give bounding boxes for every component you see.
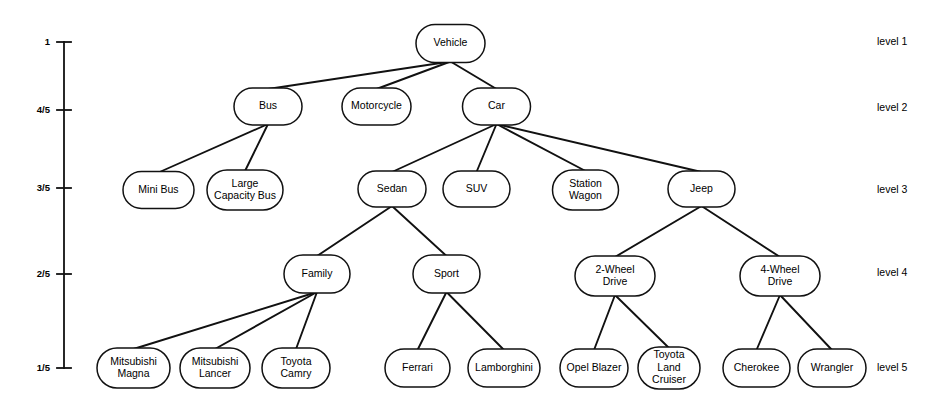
axis-tick-label-0: 1 bbox=[45, 36, 51, 47]
tree-node-jeep[interactable]: Jeep bbox=[668, 171, 735, 207]
tree-edge-sedan-to-family bbox=[317, 206, 392, 256]
tree-edge-car-to-sedan bbox=[392, 124, 497, 172]
node-label-large-cap-bus: Capacity Bus bbox=[214, 189, 276, 201]
node-label-mitsu-magna: Magna bbox=[117, 367, 149, 379]
axis-tick-label-2: 3/5 bbox=[37, 182, 51, 193]
node-label-two-wheel: 2-Wheel bbox=[595, 263, 634, 275]
tree-node-large-cap-bus[interactable]: LargeCapacity Bus bbox=[207, 170, 283, 210]
node-label-jeep: Jeep bbox=[690, 182, 713, 194]
tree-edge-vehicle-to-motorcycle bbox=[377, 62, 451, 90]
node-label-family: Family bbox=[302, 267, 334, 279]
node-label-vehicle: Vehicle bbox=[434, 36, 468, 48]
tree-node-suv[interactable]: SUV bbox=[443, 171, 510, 207]
node-label-two-wheel: Drive bbox=[603, 275, 628, 287]
node-label-station-wagon: Wagon bbox=[569, 189, 602, 201]
tree-edge-car-to-station-wagon bbox=[497, 124, 586, 171]
tree-node-sport[interactable]: Sport bbox=[413, 255, 480, 293]
tree-edge-two-wheel-to-toyota-lc bbox=[615, 295, 669, 348]
node-label-mitsu-lancer: Mitsubishi bbox=[192, 355, 239, 367]
membership-axis: 14/53/52/51/5 bbox=[37, 36, 71, 373]
tree-node-car[interactable]: Car bbox=[463, 88, 531, 125]
tree-node-two-wheel[interactable]: 2-WheelDrive bbox=[575, 256, 655, 296]
node-label-sedan: Sedan bbox=[377, 182, 408, 194]
node-label-four-wheel: Drive bbox=[768, 275, 793, 287]
node-label-mini-bus: Mini Bus bbox=[138, 183, 178, 195]
node-label-station-wagon: Station bbox=[569, 177, 602, 189]
node-label-ferrari: Ferrari bbox=[402, 361, 433, 373]
tree-canvas: VehicleBusMotorcycleCarMini BusLargeCapa… bbox=[0, 0, 937, 413]
node-label-four-wheel: 4-Wheel bbox=[760, 263, 799, 275]
node-label-toyota-camry: Camry bbox=[281, 367, 313, 379]
level-label-1: level 1 bbox=[877, 35, 908, 47]
level-labels-layer: level 1level 2level 3level 4level 5 bbox=[877, 35, 908, 373]
tree-edge-two-wheel-to-opel-blazer bbox=[594, 295, 615, 350]
node-label-toyota-lc: Cruiser bbox=[652, 373, 686, 385]
tree-node-vehicle[interactable]: Vehicle bbox=[416, 25, 485, 63]
tree-node-mini-bus[interactable]: Mini Bus bbox=[123, 172, 194, 209]
tree-edge-sedan-to-sport bbox=[392, 206, 447, 256]
tree-node-ferrari[interactable]: Ferrari bbox=[385, 349, 450, 387]
level-label-5: level 5 bbox=[877, 361, 908, 373]
node-label-bus: Bus bbox=[259, 99, 277, 111]
tree-node-four-wheel[interactable]: 4-WheelDrive bbox=[740, 256, 820, 296]
tree-node-mitsu-lancer[interactable]: MitsubishiLancer bbox=[180, 348, 250, 388]
tree-edge-vehicle-to-bus bbox=[268, 62, 451, 90]
tree-node-mitsu-magna[interactable]: MitsubishiMagna bbox=[97, 348, 170, 388]
node-label-toyota-camry: Toyota bbox=[281, 355, 312, 367]
tree-node-opel-blazer[interactable]: Opel Blazer bbox=[560, 349, 628, 387]
node-label-suv: SUV bbox=[466, 182, 488, 194]
axis-tick-label-3: 2/5 bbox=[37, 268, 51, 279]
tree-edge-bus-to-large-cap-bus bbox=[245, 124, 268, 171]
level-label-3: level 3 bbox=[877, 183, 908, 195]
tree-edge-vehicle-to-car bbox=[451, 62, 497, 90]
tree-edge-jeep-to-four-wheel bbox=[702, 206, 781, 257]
level-label-2: level 2 bbox=[877, 101, 908, 113]
tree-node-wrangler[interactable]: Wrangler bbox=[798, 349, 866, 387]
tree-node-bus[interactable]: Bus bbox=[234, 88, 302, 125]
tree-node-toyota-camry[interactable]: ToyotaCamry bbox=[262, 348, 330, 388]
axis-tick-label-4: 1/5 bbox=[37, 362, 51, 373]
node-label-mitsu-lancer: Lancer bbox=[199, 367, 232, 379]
axis-tick-label-1: 4/5 bbox=[37, 104, 51, 115]
node-label-mitsu-magna: Mitsubishi bbox=[110, 355, 157, 367]
tree-edge-family-to-mitsu-magna bbox=[134, 292, 318, 349]
tree-edge-sport-to-ferrari bbox=[418, 292, 447, 350]
tree-node-toyota-lc[interactable]: ToyotaLandCruiser bbox=[638, 347, 700, 389]
tree-edge-bus-to-mini-bus bbox=[159, 124, 269, 173]
node-label-car: Car bbox=[488, 99, 505, 111]
tree-edge-jeep-to-two-wheel bbox=[615, 206, 702, 257]
node-label-lamborghini: Lamborghini bbox=[475, 361, 533, 373]
node-label-sport: Sport bbox=[434, 267, 459, 279]
level-label-4: level 4 bbox=[877, 266, 908, 278]
vehicle-taxonomy-diagram: VehicleBusMotorcycleCarMini BusLargeCapa… bbox=[0, 0, 937, 413]
node-label-cherokee: Cherokee bbox=[734, 361, 780, 373]
node-label-toyota-lc: Toyota bbox=[654, 348, 685, 360]
tree-edge-car-to-jeep bbox=[497, 124, 702, 172]
tree-node-station-wagon[interactable]: StationWagon bbox=[553, 170, 619, 210]
tree-node-cherokee[interactable]: Cherokee bbox=[723, 349, 790, 387]
node-label-wrangler: Wrangler bbox=[811, 361, 854, 373]
tree-edge-family-to-mitsu-lancer bbox=[215, 292, 317, 349]
tree-node-sedan[interactable]: Sedan bbox=[358, 171, 426, 207]
tree-node-family[interactable]: Family bbox=[284, 255, 350, 293]
node-label-large-cap-bus: Large bbox=[232, 177, 259, 189]
node-label-opel-blazer: Opel Blazer bbox=[567, 361, 622, 373]
tree-node-motorcycle[interactable]: Motorcycle bbox=[342, 88, 411, 125]
node-label-motorcycle: Motorcycle bbox=[351, 99, 402, 111]
tree-edge-family-to-toyota-camry bbox=[296, 292, 317, 349]
node-label-toyota-lc: Land bbox=[657, 361, 681, 373]
tree-edge-four-wheel-to-wrangler bbox=[780, 295, 832, 350]
tree-edge-four-wheel-to-cherokee bbox=[757, 295, 781, 350]
tree-node-lamborghini[interactable]: Lamborghini bbox=[468, 349, 540, 387]
tree-edge-sport-to-lamborghini bbox=[447, 292, 505, 350]
